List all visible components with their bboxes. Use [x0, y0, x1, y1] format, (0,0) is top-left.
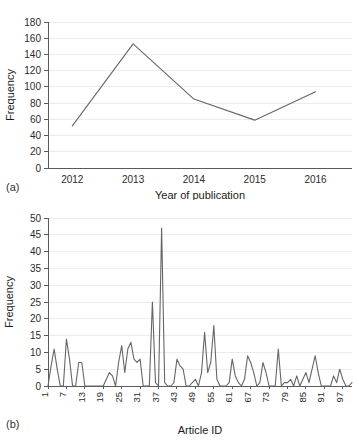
- x-tick-label: 43: [168, 392, 179, 403]
- x-tick-label: 2015: [244, 174, 267, 185]
- x-tick-label: 13: [76, 392, 87, 403]
- chart-panel-a: (a) 020406080100120140160180201220132014…: [0, 0, 359, 200]
- x-tick-label: 31: [131, 392, 142, 403]
- x-tick-label: 55: [205, 392, 216, 403]
- x-tick-label: 1: [39, 392, 50, 397]
- x-tick-label: 85: [297, 392, 308, 403]
- y-tick-label: 30: [30, 280, 42, 291]
- x-tick-label: 73: [260, 392, 271, 403]
- x-tick-label: 19: [94, 392, 105, 403]
- y-tick-label: 40: [30, 130, 42, 141]
- line-chart-article-id: 0510152025303540455017131925313743495561…: [0, 200, 359, 442]
- x-tick-label: 7: [57, 392, 68, 397]
- x-tick-label: 2013: [122, 174, 145, 185]
- panel-a-label: (a): [6, 181, 19, 193]
- x-tick-label: 79: [279, 392, 290, 403]
- x-tick-label: 91: [315, 392, 326, 403]
- x-tick-label: 49: [186, 392, 197, 403]
- x-tick-label: 2016: [304, 174, 327, 185]
- line-chart-year-of-publication: 0204060801001201401601802012201320142015…: [0, 0, 359, 200]
- y-tick-label: 10: [30, 347, 42, 358]
- y-tick-label: 40: [30, 246, 42, 257]
- x-tick-label: 2012: [61, 174, 84, 185]
- y-tick-label: 25: [30, 297, 42, 308]
- x-tick-label: 25: [113, 392, 124, 403]
- x-tick-label: 2014: [183, 174, 206, 185]
- y-tick-label: 100: [24, 81, 41, 92]
- y-tick-label: 160: [24, 33, 41, 44]
- y-tick-label: 50: [30, 213, 42, 224]
- x-axis-title: Article ID: [178, 424, 223, 436]
- x-axis-title: Year of publication: [155, 189, 245, 200]
- y-tick-label: 140: [24, 49, 41, 60]
- y-tick-label: 15: [30, 330, 42, 341]
- x-tick-label: 67: [242, 392, 253, 403]
- x-tick-label: 97: [334, 392, 345, 403]
- data-series-line: [72, 44, 315, 126]
- x-tick-label: 61: [223, 392, 234, 403]
- y-tick-label: 20: [30, 146, 42, 157]
- y-tick-label: 20: [30, 313, 42, 324]
- y-axis-title: Frequency: [4, 69, 16, 121]
- y-tick-label: 35: [30, 263, 42, 274]
- y-tick-label: 5: [35, 364, 41, 375]
- figure-container: (a) 020406080100120140160180201220132014…: [0, 0, 359, 442]
- y-tick-label: 0: [35, 381, 41, 392]
- y-tick-label: 80: [30, 98, 42, 109]
- y-tick-label: 0: [35, 163, 41, 174]
- y-tick-label: 45: [30, 229, 42, 240]
- chart-panel-b: (b) 051015202530354045501713192531374349…: [0, 200, 359, 442]
- x-tick-label: 37: [150, 392, 161, 403]
- y-tick-label: 60: [30, 114, 42, 125]
- y-tick-label: 120: [24, 65, 41, 76]
- y-tick-label: 180: [24, 17, 41, 28]
- y-axis-title: Frequency: [3, 276, 15, 328]
- panel-b-label: (b): [6, 418, 19, 430]
